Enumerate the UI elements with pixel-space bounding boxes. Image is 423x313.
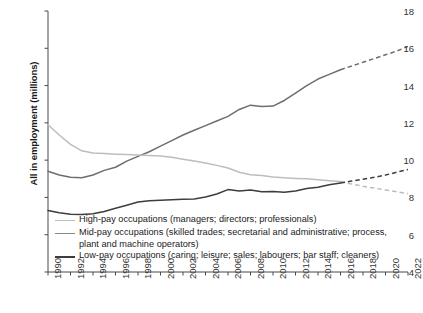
legend-swatch-2 xyxy=(55,256,75,258)
series-forecast-2 xyxy=(341,169,409,182)
y-tick-label: 10 xyxy=(373,155,414,166)
series-line-1 xyxy=(48,125,341,182)
legend-label-0: High-pay occupations (managers; director… xyxy=(79,214,316,226)
series-line-2 xyxy=(48,183,341,215)
legend-swatch-0 xyxy=(55,220,75,221)
legend-label-1-line2: plant and machine operators) xyxy=(79,239,199,251)
legend-label-2: Low-pay occupations (caring; leisure; sa… xyxy=(79,250,379,262)
x-tick-label: 2020 xyxy=(390,258,401,279)
y-tick-label: 18 xyxy=(373,6,414,17)
legend-label-1: Mid-pay occupations (skilled trades; sec… xyxy=(79,227,387,239)
y-tick-label: 12 xyxy=(373,117,414,128)
legend-swatch-1 xyxy=(55,233,75,234)
y-tick-label: 8 xyxy=(373,192,414,203)
y-axis-title: All in employment (millions) xyxy=(28,39,39,209)
x-tick-label: 1990 xyxy=(52,258,63,279)
y-tick-label: 16 xyxy=(373,43,414,54)
x-tick-label: 2022 xyxy=(412,258,423,279)
y-tick-label: 14 xyxy=(373,80,414,91)
